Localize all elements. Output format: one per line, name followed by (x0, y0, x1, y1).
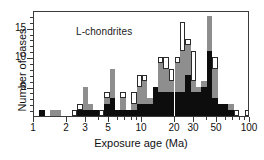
bar-segment-white (191, 51, 196, 80)
x-tick-minor (244, 117, 245, 120)
x-tick-minor (117, 117, 118, 120)
y-tick-major (27, 29, 33, 30)
y-tick-minor (30, 23, 33, 24)
bar-segment-black (39, 110, 45, 116)
x-tick-label: 3 (82, 122, 88, 133)
histogram-bar (39, 110, 45, 116)
x-tick-label: 1 (30, 122, 36, 133)
bar-segment-gray (212, 69, 217, 98)
histogram-bar (55, 110, 61, 116)
x-tick-label: 20 (168, 122, 179, 133)
bar-segment-gray (110, 69, 115, 98)
y-tick-minor (30, 76, 33, 77)
y-tick-minor (30, 99, 33, 100)
y-tick-minor (30, 17, 33, 18)
bar-segment-gray (207, 16, 212, 51)
x-tick-minor (131, 117, 132, 120)
x-tick-label: 30 (187, 122, 198, 133)
x-tick-label: 50 (210, 122, 221, 133)
y-tick-major (27, 88, 33, 89)
bar-segment-white (212, 57, 217, 69)
y-tick-minor (30, 52, 33, 53)
bar-segment-gray (55, 110, 61, 116)
y-tick-minor (30, 35, 33, 36)
y-tick-minor (30, 70, 33, 71)
x-tick-minor (98, 117, 99, 120)
plot-annotation-label: L-chondrites (76, 26, 132, 37)
chart-figure: 51015 Number of cases L-chondrites Expos… (0, 0, 264, 160)
y-tick-minor (30, 82, 33, 83)
y-tick-minor (30, 93, 33, 94)
histogram-bar (245, 110, 248, 116)
y-tick-minor (30, 111, 33, 112)
x-tick-minor (232, 117, 233, 120)
x-tick-minor (136, 117, 137, 120)
bar-segment-white (245, 110, 248, 116)
histogram-bars (34, 12, 248, 116)
x-tick-label: 100 (241, 122, 258, 133)
x-tick-label: 10 (135, 122, 146, 133)
x-tick-minor (124, 117, 125, 120)
bar-segment-white (163, 57, 169, 69)
x-axis-title: Exposure age (Ma) (33, 137, 249, 149)
y-tick-minor (30, 105, 33, 106)
bar-segment-white (234, 110, 239, 116)
x-tick-label: 5 (105, 122, 111, 133)
x-tick-minor (206, 117, 207, 120)
histogram-bar (110, 69, 115, 116)
histogram-bar (234, 110, 239, 116)
y-tick-minor (30, 46, 33, 47)
x-tick-minor (239, 117, 240, 120)
y-tick-minor (30, 64, 33, 65)
x-tick-minor (225, 117, 226, 120)
bar-segment-gray (120, 98, 125, 110)
y-tick-minor (30, 40, 33, 41)
x-tick-label: 2 (63, 122, 69, 133)
plot-area: L-chondrites (33, 11, 249, 117)
y-axis-title: Number of cases (16, 10, 28, 130)
y-tick-major (27, 58, 33, 59)
